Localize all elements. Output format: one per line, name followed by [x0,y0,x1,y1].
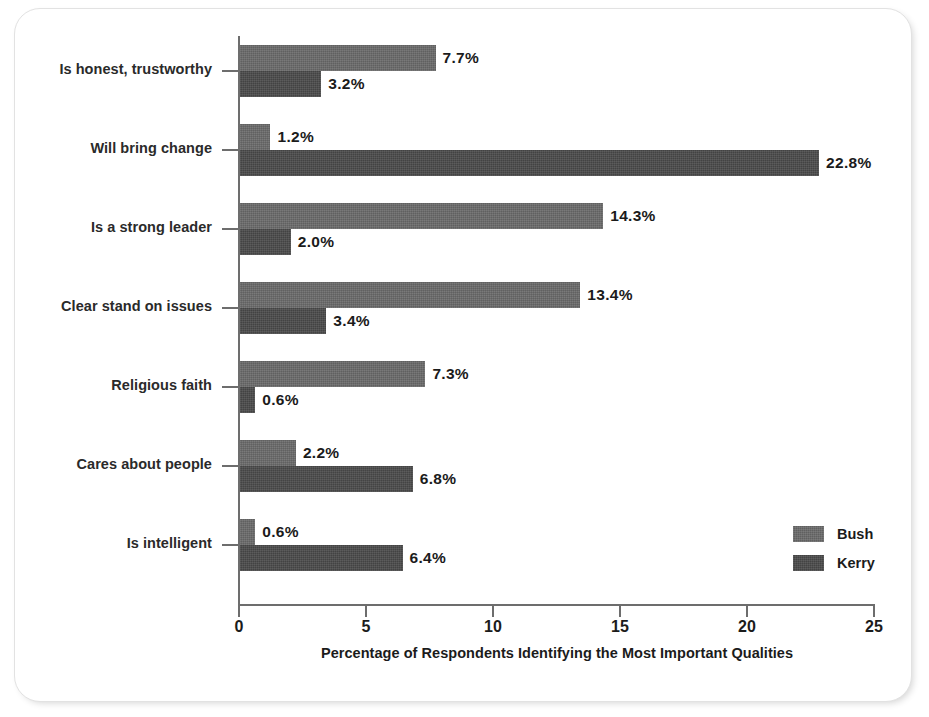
bar-kerry [240,387,255,413]
category-label: Cares about people [77,456,212,472]
figure-page: 0510152025 Is honest, trustworthyWill br… [0,0,929,717]
bar-value-label: 7.7% [443,45,480,71]
bar-bush [240,45,436,71]
x-axis-tick-label: 20 [717,618,777,636]
legend-label-kerry: Kerry [837,553,875,573]
bar-value-label: 0.6% [262,387,299,413]
bar-bush [240,124,270,150]
bar-bush [240,440,296,466]
grouped-bar-chart: 0510152025 Is honest, trustworthyWill br… [0,0,929,717]
category-tick [222,386,238,388]
category-label: Is a strong leader [91,219,212,235]
bar-value-label: 14.3% [610,203,655,229]
x-axis-tick-label: 5 [336,618,396,636]
x-axis-tick [873,606,875,617]
bar-value-label: 3.2% [328,71,365,97]
category-tick [222,544,238,546]
bar-bush [240,519,255,545]
category-tick [222,149,238,151]
category-label: Will bring change [90,140,212,156]
category-label: Clear stand on issues [61,298,212,314]
legend-label-bush: Bush [837,524,873,544]
legend-swatch-bush [793,526,824,542]
bar-kerry [240,466,413,492]
x-axis-tick [746,606,748,617]
bar-kerry [240,150,819,176]
bar-value-label: 22.8% [826,150,871,176]
category-tick [222,307,238,309]
category-tick [222,465,238,467]
bar-kerry [240,71,321,97]
x-axis-line [239,604,875,606]
x-axis-tick [238,606,240,617]
bar-value-label: 3.4% [333,308,370,334]
category-label: Religious faith [111,377,212,393]
category-tick [222,228,238,230]
bar-kerry [240,545,403,571]
category-label: Is intelligent [127,535,212,551]
bar-bush [240,203,603,229]
x-axis-tick [619,606,621,617]
bar-value-label: 6.4% [410,545,447,571]
bar-value-label: 7.3% [432,361,469,387]
bar-kerry [240,308,326,334]
bar-value-label: 13.4% [587,282,632,308]
bar-kerry [240,229,291,255]
x-axis-tick [365,606,367,617]
bar-value-label: 0.6% [262,519,299,545]
bar-value-label: 6.8% [420,466,457,492]
legend-swatch-kerry [793,555,824,571]
x-axis-title: Percentage of Respondents Identifying th… [239,645,875,661]
x-axis-tick [492,606,494,617]
bar-value-label: 2.0% [298,229,335,255]
x-axis-tick-label: 25 [844,618,904,636]
bar-bush [240,361,425,387]
category-label: Is honest, trustworthy [59,61,212,77]
x-axis-tick-label: 0 [209,618,269,636]
bar-value-label: 2.2% [303,440,340,466]
x-axis-tick-label: 10 [463,618,523,636]
bar-value-label: 1.2% [277,124,314,150]
category-tick [222,70,238,72]
x-axis-tick-label: 15 [590,618,650,636]
bar-bush [240,282,580,308]
